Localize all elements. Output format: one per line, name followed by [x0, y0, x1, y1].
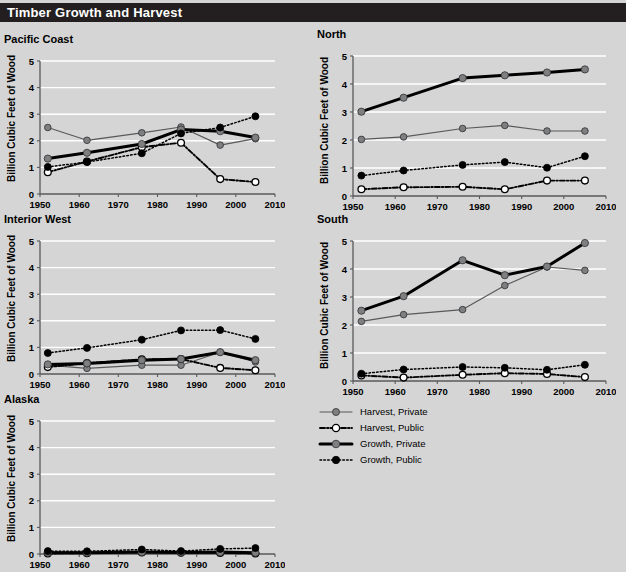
- svg-text:5: 5: [29, 56, 35, 67]
- data-point: [581, 66, 588, 73]
- svg-text:1990: 1990: [511, 386, 532, 397]
- data-point: [543, 69, 550, 76]
- svg-text:1970: 1970: [108, 199, 129, 210]
- plot-svg: 0123451950196019701980199020002010: [4, 45, 285, 216]
- svg-text:1950: 1950: [342, 386, 363, 397]
- svg-text:4: 4: [342, 79, 348, 90]
- data-point: [139, 130, 146, 137]
- data-point: [252, 179, 259, 186]
- data-point: [178, 548, 185, 555]
- plot-area: 0123451950196019701980199020002010: [4, 405, 285, 572]
- data-point: [501, 186, 508, 193]
- series-line: [48, 552, 256, 553]
- legend-label: Growth, Private: [360, 437, 425, 450]
- svg-text:4: 4: [29, 82, 35, 93]
- svg-text:1980: 1980: [147, 199, 168, 210]
- svg-text:1960: 1960: [69, 559, 90, 570]
- svg-text:3: 3: [29, 289, 34, 300]
- data-point: [138, 336, 145, 343]
- data-point: [582, 267, 589, 274]
- data-point: [252, 545, 259, 552]
- data-point: [459, 306, 466, 313]
- data-point: [581, 361, 588, 368]
- series-line: [361, 181, 585, 190]
- data-point: [84, 159, 91, 166]
- svg-text:2000: 2000: [553, 201, 574, 212]
- plot-area: 0123451950196019701980199020002010: [317, 40, 616, 218]
- data-point: [358, 186, 365, 193]
- data-point: [582, 177, 589, 184]
- svg-text:1990: 1990: [186, 199, 207, 210]
- data-point: [502, 282, 509, 289]
- legend-swatch-icon: [318, 404, 354, 420]
- svg-text:1970: 1970: [108, 559, 129, 570]
- svg-text:2: 2: [342, 320, 347, 331]
- svg-text:1970: 1970: [427, 201, 448, 212]
- series-line: [361, 156, 585, 175]
- data-point: [217, 142, 224, 149]
- svg-text:2: 2: [29, 135, 34, 146]
- data-point: [83, 360, 90, 367]
- data-point: [358, 370, 365, 377]
- series-line: [361, 243, 585, 311]
- svg-text:4: 4: [342, 264, 348, 275]
- panel-title: Pacific Coast: [4, 33, 73, 45]
- data-point: [400, 311, 407, 318]
- data-point: [252, 367, 259, 374]
- data-point: [459, 257, 466, 264]
- data-point: [582, 128, 589, 135]
- panel-title: North: [317, 28, 346, 40]
- svg-text:1960: 1960: [385, 386, 406, 397]
- svg-text:5: 5: [29, 416, 35, 427]
- data-point: [252, 113, 259, 120]
- data-point: [501, 272, 508, 279]
- svg-text:1: 1: [29, 522, 35, 533]
- svg-text:1950: 1950: [29, 199, 50, 210]
- data-point: [543, 263, 550, 270]
- data-point: [582, 374, 589, 381]
- series-line: [361, 69, 585, 111]
- data-point: [217, 327, 224, 334]
- svg-text:2010: 2010: [264, 379, 285, 390]
- svg-text:1970: 1970: [427, 386, 448, 397]
- data-point: [44, 548, 51, 555]
- data-point: [400, 134, 407, 141]
- panel-title: South: [317, 213, 348, 225]
- data-point: [44, 163, 51, 170]
- svg-text:2: 2: [29, 315, 34, 326]
- svg-text:0: 0: [29, 369, 34, 380]
- svg-text:2010: 2010: [264, 559, 285, 570]
- page-title: Timber Growth and Harvest: [7, 5, 182, 20]
- svg-text:1: 1: [29, 162, 35, 173]
- legend-swatch-icon: [318, 452, 354, 468]
- data-point: [400, 167, 407, 174]
- data-point: [177, 356, 184, 363]
- svg-text:5: 5: [342, 51, 348, 62]
- data-point: [459, 371, 466, 378]
- panel-title: Interior West: [4, 213, 71, 225]
- svg-text:4: 4: [29, 442, 35, 453]
- series-line: [48, 352, 256, 364]
- data-point: [138, 357, 145, 364]
- data-point: [358, 108, 365, 115]
- data-point: [459, 75, 466, 82]
- svg-text:1970: 1970: [108, 379, 129, 390]
- svg-text:2000: 2000: [225, 559, 246, 570]
- data-point: [178, 139, 185, 146]
- panel-title: Alaska: [4, 393, 39, 405]
- svg-text:2010: 2010: [595, 386, 616, 397]
- data-point: [459, 125, 466, 132]
- svg-text:1990: 1990: [186, 559, 207, 570]
- series-line: [361, 365, 585, 374]
- svg-text:2010: 2010: [595, 201, 616, 212]
- data-point: [178, 130, 185, 137]
- plot-area: 0123451950196019701980199020002010: [4, 45, 285, 216]
- data-point: [44, 350, 51, 357]
- svg-text:1980: 1980: [147, 559, 168, 570]
- data-point: [44, 155, 51, 162]
- data-point: [544, 366, 551, 373]
- data-point: [459, 183, 466, 190]
- legend-label: Growth, Public: [360, 453, 422, 466]
- svg-text:0: 0: [29, 549, 34, 560]
- data-point: [400, 94, 407, 101]
